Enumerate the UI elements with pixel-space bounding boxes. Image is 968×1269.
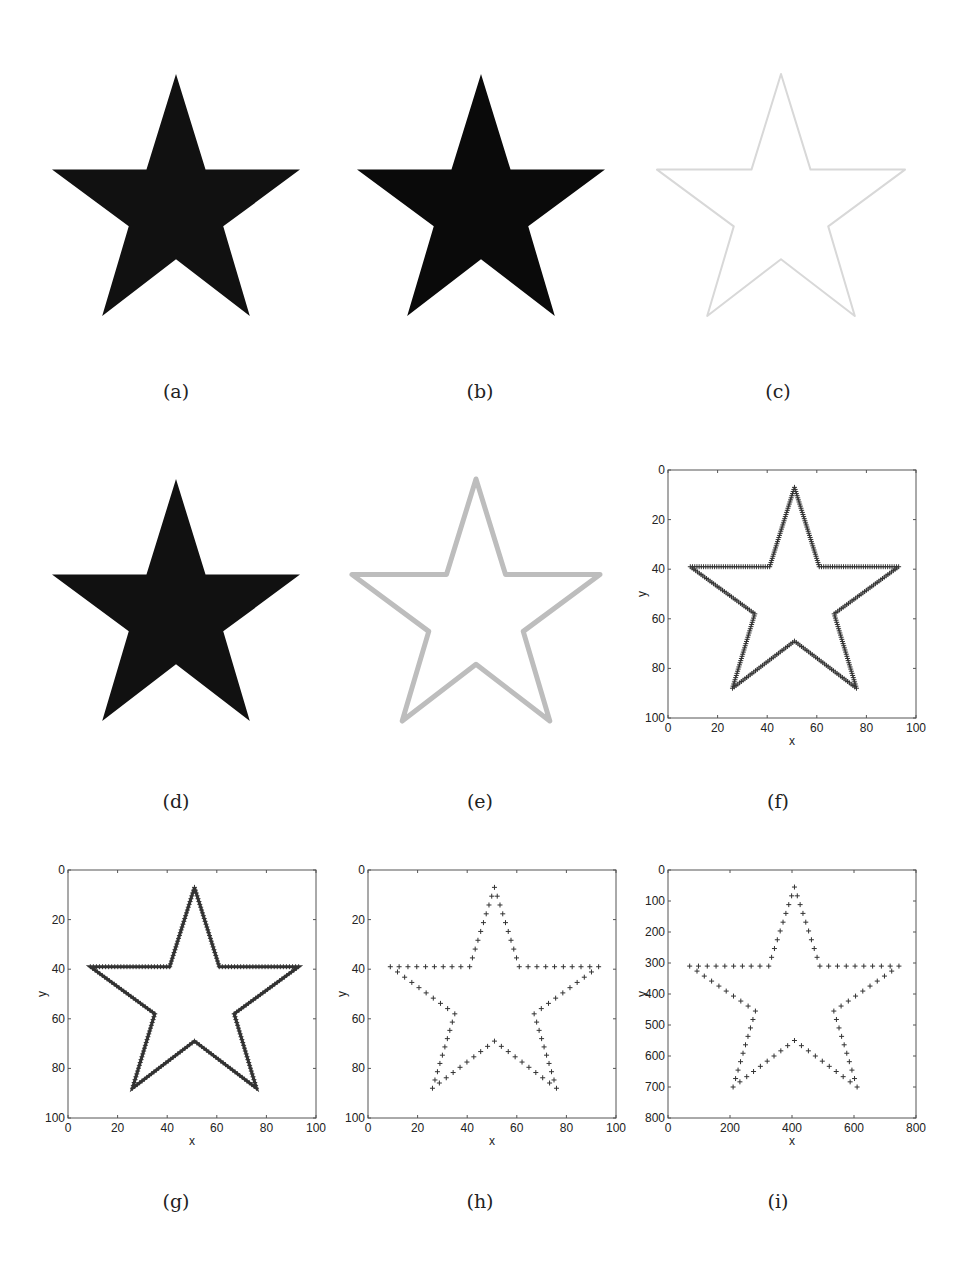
svg-text:100: 100 [45,1111,65,1125]
svg-text:100: 100 [306,1121,326,1135]
svg-text:x: x [189,1134,195,1148]
svg-text:40: 40 [461,1121,475,1135]
svg-text:700: 700 [645,1080,665,1094]
svg-text:x: x [489,1134,495,1148]
svg-text:0: 0 [358,863,365,877]
caption-e: (e) [440,790,520,812]
svg-text:300: 300 [645,956,665,970]
star-filled-icon [40,60,320,340]
caption-f: (f) [738,790,818,812]
svg-text:y: y [635,991,649,997]
svg-text:80: 80 [560,1121,574,1135]
svg-text:40: 40 [761,721,775,735]
svg-text:60: 60 [652,612,666,626]
svg-text:400: 400 [782,1121,802,1135]
svg-text:800: 800 [645,1111,665,1125]
caption-b: (b) [440,380,520,402]
caption-g: (g) [136,1190,216,1212]
svg-text:40: 40 [352,962,366,976]
svg-text:0: 0 [65,1121,72,1135]
svg-text:20: 20 [411,1121,425,1135]
star-outline-icon [340,465,620,745]
svg-text:800: 800 [906,1121,926,1135]
svg-text:500: 500 [645,1018,665,1032]
svg-text:40: 40 [652,562,666,576]
star-filled-icon [40,465,320,745]
svg-text:40: 40 [161,1121,175,1135]
svg-text:200: 200 [645,925,665,939]
svg-text:80: 80 [260,1121,274,1135]
svg-text:0: 0 [665,1121,672,1135]
caption-a: (a) [136,380,216,402]
svg-text:60: 60 [352,1012,366,1026]
plot-f: 020406080100020406080100xy [640,460,940,760]
star-filled-icon [345,60,625,340]
caption-i: (i) [738,1190,818,1212]
scatter-plot: 020406080100020406080100xy [340,860,640,1160]
panel-d [40,465,320,745]
plot-h: 020406080100020406080100xy [340,860,640,1160]
svg-text:0: 0 [665,721,672,735]
caption-d: (d) [136,790,216,812]
svg-text:600: 600 [844,1121,864,1135]
svg-text:0: 0 [658,463,665,477]
panel-b [345,60,625,340]
svg-text:100: 100 [606,1121,626,1135]
svg-text:x: x [789,1134,795,1148]
svg-text:20: 20 [711,721,725,735]
svg-text:80: 80 [52,1061,66,1075]
plot-i: 02004006008000100200300400500600700800xy [640,860,940,1160]
panel-a [40,60,320,340]
caption-c: (c) [738,380,818,402]
star-outline-icon [645,60,925,340]
scatter-plot: 02004006008000100200300400500600700800xy [640,860,940,1160]
svg-text:600: 600 [645,1049,665,1063]
svg-text:40: 40 [52,962,66,976]
panel-e [340,465,620,745]
svg-text:x: x [789,734,795,748]
svg-text:80: 80 [652,661,666,675]
svg-text:0: 0 [58,863,65,877]
svg-text:y: y [635,591,649,597]
svg-text:200: 200 [720,1121,740,1135]
svg-text:y: y [35,991,49,997]
svg-text:60: 60 [810,721,824,735]
line-plot: 020406080100020406080100xy [40,860,340,1160]
svg-text:80: 80 [860,721,874,735]
svg-text:20: 20 [652,513,666,527]
svg-text:0: 0 [658,863,665,877]
svg-text:100: 100 [645,894,665,908]
panel-c [645,60,925,340]
svg-text:100: 100 [345,1111,365,1125]
svg-text:60: 60 [52,1012,66,1026]
caption-h: (h) [440,1190,520,1212]
svg-text:100: 100 [906,721,926,735]
svg-text:80: 80 [352,1061,366,1075]
svg-text:0: 0 [365,1121,372,1135]
plot-g: 020406080100020406080100xy [40,860,340,1160]
scatter-plot: 020406080100020406080100xy [640,460,940,760]
svg-text:20: 20 [352,913,366,927]
svg-text:60: 60 [510,1121,524,1135]
svg-text:60: 60 [210,1121,224,1135]
svg-text:y: y [335,991,349,997]
svg-text:20: 20 [52,913,66,927]
svg-text:20: 20 [111,1121,125,1135]
svg-text:100: 100 [645,711,665,725]
